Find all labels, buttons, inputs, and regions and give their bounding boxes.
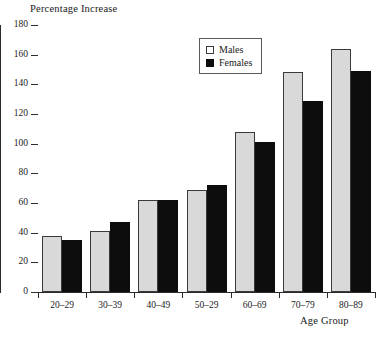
bar-female-20–29: [62, 240, 82, 292]
x-tick: [327, 293, 328, 298]
bar-male-70–79: [283, 72, 303, 292]
y-tick: [31, 233, 38, 234]
bar-male-80–89: [331, 49, 351, 292]
x-axis-line: [37, 292, 376, 293]
x-tick: [134, 293, 135, 298]
x-group-label-30–39: 30–39: [86, 299, 134, 311]
y-tick-label: 40: [0, 228, 28, 238]
bar-male-60–69: [235, 132, 255, 292]
bar-female-50–29: [207, 185, 227, 292]
bar-male-20–29: [42, 236, 62, 292]
y-tick-label-text: 140: [2, 79, 28, 89]
y-tick-label-text: 160: [2, 50, 28, 60]
bar-male-50–29: [187, 190, 207, 292]
y-tick-label-text: 100: [2, 139, 28, 149]
bar-female-70–79: [303, 101, 323, 292]
y-tick: [31, 114, 38, 115]
y-tick: [31, 292, 38, 293]
y-tick-label-text: 120: [2, 109, 28, 119]
x-group-label-50–29: 50–29: [183, 299, 231, 311]
y-tick: [31, 144, 38, 145]
y-tick-label: 20: [0, 257, 28, 267]
x-group-label-20–29: 20–29: [38, 299, 86, 311]
legend: Males Females: [199, 38, 262, 74]
bar-female-80–89: [351, 71, 371, 292]
y-tick-label-text: 180: [2, 20, 28, 30]
bar-male-40–49: [138, 200, 158, 292]
y-tick-label: 120: [0, 109, 28, 119]
bar-female-40–49: [158, 200, 178, 292]
y-tick-label: 80: [0, 168, 28, 178]
y-tick-label-text: 80: [2, 168, 28, 178]
x-group-label-40–49: 40–49: [134, 299, 182, 311]
y-tick: [31, 25, 38, 26]
black-square-icon: [206, 59, 214, 67]
y-axis-line: [0, 25, 1, 293]
y-tick-label: 0: [0, 287, 28, 297]
x-group-label-70–79: 70–79: [279, 299, 327, 311]
legend-label-males: Males: [219, 44, 243, 55]
x-tick: [86, 293, 87, 298]
x-tick: [182, 293, 183, 298]
x-axis-title: Age Group: [300, 315, 349, 326]
x-tick: [375, 293, 376, 298]
y-tick-label: 160: [0, 50, 28, 60]
x-tick: [279, 293, 280, 298]
y-tick-label: 100: [0, 139, 28, 149]
bar-female-30–39: [110, 222, 130, 292]
legend-entry-females: Females: [206, 56, 252, 69]
y-tick: [31, 55, 38, 56]
y-tick-label: 180: [0, 20, 28, 30]
y-tick-label-text: 20: [2, 257, 28, 267]
y-tick: [31, 173, 38, 174]
bar-female-60–69: [255, 142, 275, 292]
y-tick-label-text: 0: [2, 287, 28, 297]
bar-male-30–39: [90, 231, 110, 292]
x-tick: [231, 293, 232, 298]
y-tick-label: 60: [0, 198, 28, 208]
bar-chart: Percentage Increase Age Group 0204060801…: [0, 0, 388, 338]
y-tick-label-text: 60: [2, 198, 28, 208]
y-axis-title: Percentage Increase: [30, 3, 117, 14]
y-tick-label: 140: [0, 79, 28, 89]
y-tick: [31, 262, 38, 263]
legend-label-females: Females: [219, 57, 252, 68]
x-group-label-80–89: 80–89: [327, 299, 375, 311]
x-group-label-60–69: 60–69: [231, 299, 279, 311]
y-tick-label-text: 40: [2, 228, 28, 238]
x-tick: [38, 293, 39, 298]
y-tick: [31, 84, 38, 85]
y-tick: [31, 203, 38, 204]
legend-entry-males: Males: [206, 43, 252, 56]
light-gray-square-icon: [206, 46, 214, 54]
